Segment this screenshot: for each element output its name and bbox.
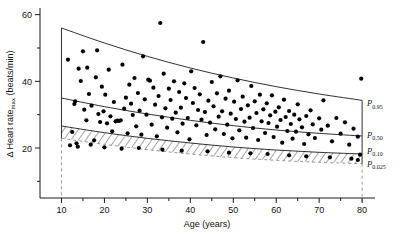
x-tick-label: 70 (314, 205, 324, 215)
data-point (266, 121, 270, 125)
data-point (201, 40, 205, 44)
data-point (96, 112, 100, 116)
data-point (287, 109, 291, 113)
data-point (287, 153, 291, 157)
data-point (95, 48, 99, 52)
data-point (153, 103, 157, 107)
data-point (124, 96, 128, 100)
data-point (108, 114, 112, 118)
data-point (203, 110, 207, 114)
data-point (278, 118, 282, 122)
x-tick-label: 30 (142, 205, 152, 215)
data-point (211, 104, 215, 108)
data-point (151, 86, 155, 90)
data-point (187, 137, 191, 141)
data-point (304, 114, 308, 118)
data-point (184, 96, 188, 100)
data-point (220, 109, 224, 113)
axis-tick-labels: 1020304050607080204060 (22, 10, 367, 215)
data-point (194, 123, 198, 127)
data-point (270, 93, 274, 97)
data-point (260, 119, 264, 123)
data-point (143, 97, 147, 101)
data-point (254, 111, 258, 115)
data-point (103, 93, 107, 97)
data-point (297, 117, 301, 121)
data-point (241, 95, 245, 99)
data-point (289, 122, 293, 126)
data-point (182, 81, 186, 85)
data-point (244, 136, 248, 140)
data-point (175, 130, 179, 134)
data-point (180, 149, 184, 153)
data-point (290, 137, 294, 141)
data-point (139, 133, 143, 137)
data-point (191, 101, 195, 105)
svg-text:Δ Heart ratemax (beats/min): Δ Heart ratemax (beats/min) (5, 51, 16, 158)
data-point (282, 98, 286, 102)
data-point (206, 99, 210, 103)
y-tick-label: 40 (22, 77, 32, 87)
data-point (308, 108, 312, 112)
data-point (160, 115, 164, 119)
data-point (266, 152, 270, 156)
data-point (272, 135, 276, 139)
data-point (138, 109, 142, 113)
data-point (167, 87, 171, 91)
x-axis-title: Age (years) (184, 219, 231, 229)
data-point (249, 84, 253, 88)
data-point (306, 132, 310, 136)
curve-p050 (61, 98, 362, 136)
curve-p095 (61, 28, 362, 100)
data-point (218, 74, 222, 78)
data-point (89, 143, 93, 147)
data-point (82, 108, 86, 112)
data-point (199, 118, 203, 122)
data-point (215, 91, 219, 95)
data-point (174, 111, 178, 115)
data-point (359, 77, 363, 81)
data-point (263, 131, 267, 135)
data-point (284, 115, 288, 119)
data-point (313, 136, 317, 140)
data-point (112, 100, 116, 104)
data-point (100, 85, 104, 89)
data-point (162, 72, 166, 76)
data-point (73, 99, 77, 103)
data-point (356, 135, 360, 139)
data-point (319, 128, 323, 132)
data-point (163, 106, 167, 110)
y-axis-title-main: Δ Heart rate (5, 109, 15, 157)
data-point (66, 58, 70, 62)
data-point (70, 130, 74, 134)
data-point (76, 145, 80, 149)
data-point (198, 92, 202, 96)
data-point (227, 89, 231, 93)
data-point (208, 121, 212, 125)
data-point (165, 126, 169, 130)
data-point (196, 108, 200, 112)
data-point (347, 143, 351, 147)
data-point (232, 100, 236, 104)
data-point (186, 116, 190, 120)
data-point (248, 151, 252, 155)
data-point (223, 97, 227, 101)
data-point (107, 68, 111, 72)
data-point (85, 66, 89, 70)
data-point (343, 120, 347, 124)
data-point (134, 124, 138, 128)
data-point (334, 116, 338, 120)
data-point (189, 69, 193, 73)
data-point (122, 107, 126, 111)
data-point (304, 154, 308, 158)
data-point (94, 75, 98, 79)
data-point (179, 106, 183, 110)
data-point (205, 149, 209, 153)
data-point (268, 113, 272, 117)
data-point (141, 54, 145, 58)
data-point (326, 124, 330, 128)
x-tick-label: 40 (185, 205, 195, 215)
data-point (277, 105, 281, 109)
data-point (328, 155, 332, 159)
data-point (105, 121, 109, 125)
